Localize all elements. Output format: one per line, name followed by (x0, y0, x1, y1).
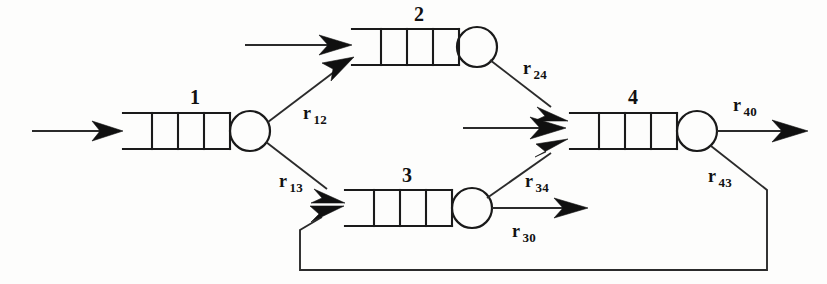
route-r12-label: r12 (303, 104, 327, 126)
route-r43-label-sub: 43 (719, 175, 733, 190)
route-r30-label-base: r (512, 221, 520, 241)
station-4-label: 4 (628, 87, 638, 107)
station-1-label: 1 (190, 87, 200, 107)
route-r43-label-base: r (708, 166, 716, 186)
route-r13-arrow (266, 142, 345, 203)
route-r30-label-sub: 30 (523, 230, 537, 245)
route-r34-label-sub: 34 (536, 180, 550, 195)
route-r43-label: r43 (708, 167, 732, 189)
route-r24-label-sub: 24 (534, 67, 548, 82)
route-r12-label-sub: 12 (314, 112, 328, 127)
arrival-arrow-station-1 (32, 121, 123, 141)
station-1-queue (123, 113, 230, 149)
route-r24-label: r24 (523, 59, 547, 81)
station-3-queue (345, 190, 452, 226)
route-r34-label: r34 (525, 172, 549, 194)
route-r40-label: r40 (733, 96, 757, 118)
route-r30-arrow (492, 198, 588, 218)
route-r40-label-base: r (733, 95, 741, 115)
network-canvas (0, 0, 827, 284)
route-r24-label-base: r (523, 58, 531, 78)
route-r13-label-sub: 13 (290, 180, 304, 195)
station-2-queue (352, 29, 459, 65)
route-r13-label: r13 (279, 172, 303, 194)
station-3-label: 3 (402, 165, 412, 185)
queueing-network-diagram: 1 2 3 4 r12 r13 r24 r34 r30 r40 r43 (0, 0, 827, 284)
station-3-server (452, 188, 492, 228)
arrival-arrow-station-2 (245, 35, 352, 55)
station-2-label: 2 (414, 4, 424, 24)
station-4-server (677, 111, 717, 151)
station-4-queue (570, 113, 677, 149)
route-r13-label-base: r (279, 171, 287, 191)
route-r12-label-base: r (303, 103, 311, 123)
route-r40-label-sub: 40 (744, 104, 758, 119)
route-r30-label: r30 (512, 222, 536, 244)
station-1-server (230, 111, 270, 151)
route-r34-label-base: r (525, 171, 533, 191)
route-r40-arrow (717, 120, 808, 142)
